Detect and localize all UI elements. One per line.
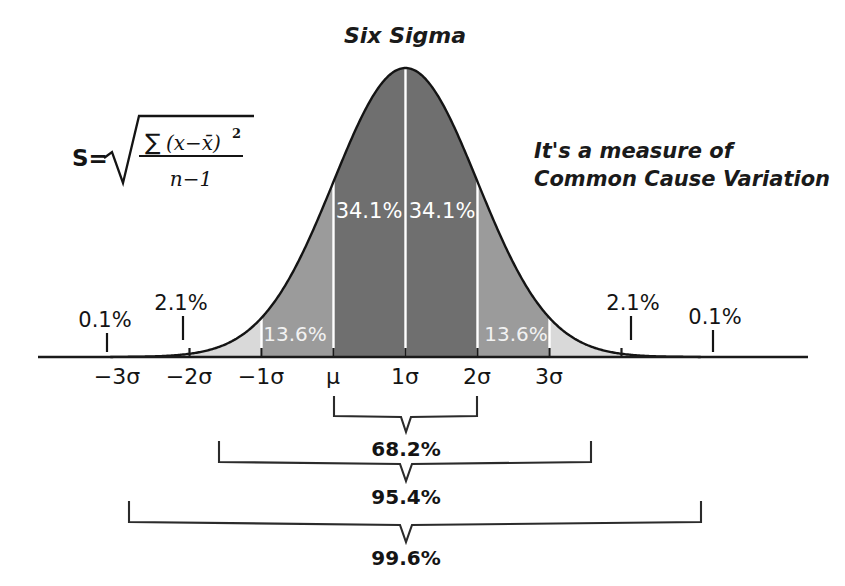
six-sigma-figure: −3σ −2σ −1σ μ 1σ 2σ 3σ Six Sigma It's a … — [0, 0, 845, 586]
formula-denominator: n−1 — [170, 167, 212, 191]
formula-numerator-body: (x−x̄) — [166, 131, 221, 155]
standard-deviation-formula: S= ∑ (x−x̄) 2 n−1 — [72, 116, 254, 191]
chart-title: Six Sigma — [344, 23, 466, 48]
axis-tick-label-neg3sigma: −3σ — [94, 364, 140, 389]
axis-tick-label-mu: μ — [326, 364, 340, 389]
label-left-outer-tail: 0.1% — [78, 308, 131, 332]
formula-exponent: 2 — [232, 126, 241, 141]
normal-distribution-chart: −3σ −2σ −1σ μ 1σ 2σ 3σ Six Sigma It's a … — [0, 0, 845, 586]
label-left-1sigma: 13.6% — [263, 322, 327, 346]
axis-tick-label-3sigma: 3σ — [535, 364, 563, 389]
summation-symbol: ∑ — [145, 129, 161, 155]
bracket-label-95: 95.4% — [371, 485, 440, 509]
bracket-label-99: 99.6% — [371, 546, 440, 570]
label-right-1sigma: 13.6% — [484, 322, 548, 346]
bracket-path-68 — [334, 396, 477, 432]
axis-tick-label-neg2sigma: −2σ — [166, 364, 212, 389]
annotation-line-1: It's a measure of — [534, 139, 736, 163]
label-right-center: 34.1% — [409, 199, 476, 223]
axis-tick-label-neg1sigma: −1σ — [238, 364, 284, 389]
formula-lhs: S= — [72, 145, 108, 171]
label-right-2sigma: 2.1% — [606, 291, 659, 315]
axis-tick-label-1sigma: 1σ — [391, 364, 419, 389]
label-left-2sigma: 2.1% — [154, 291, 207, 315]
bracket-label-68: 68.2% — [371, 437, 440, 461]
annotation-line-2: Common Cause Variation — [534, 167, 830, 191]
axis-tick-label-2sigma: 2σ — [463, 364, 491, 389]
cumulative-bracket-99: 99.6% — [129, 501, 701, 570]
label-right-outer-tail: 0.1% — [688, 305, 741, 329]
label-left-center: 34.1% — [336, 199, 403, 223]
cumulative-bracket-68: 68.2% — [334, 396, 477, 461]
